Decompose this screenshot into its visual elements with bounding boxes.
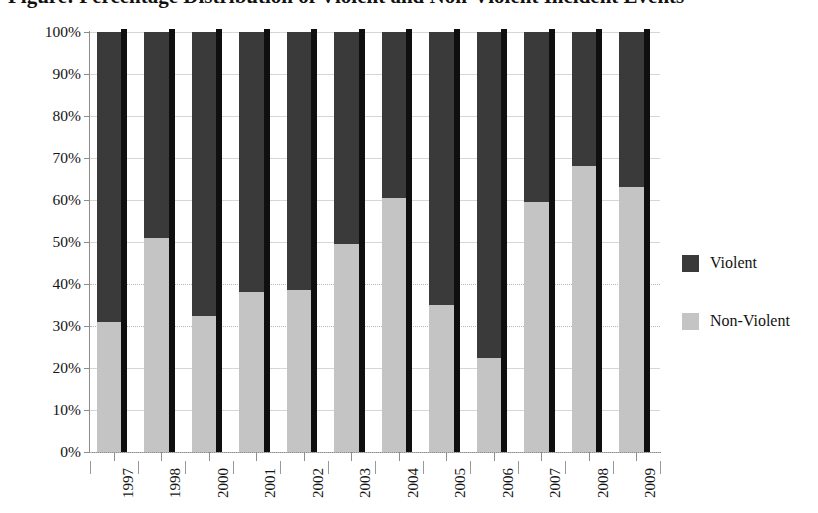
bar-segment-violent[interactable] (334, 32, 359, 244)
bar-slot[interactable] (280, 32, 328, 452)
y-tick-label: 0% (60, 443, 81, 461)
x-axis-separator (423, 461, 424, 474)
bar-segment-violent[interactable] (477, 32, 502, 358)
stacked-bar[interactable] (192, 32, 217, 452)
bar-slot[interactable] (375, 32, 423, 452)
y-tick-label: 60% (53, 191, 81, 209)
legend-item[interactable]: Violent (682, 252, 812, 274)
legend-swatch-icon (682, 313, 699, 330)
bar-slot[interactable] (423, 32, 471, 452)
x-tick-label: 2007 (547, 468, 564, 498)
bar-segment-violent[interactable] (382, 32, 407, 198)
bar-slot[interactable] (470, 32, 518, 452)
bar-segment-non-violent[interactable] (239, 292, 264, 452)
bar-segment-non-violent[interactable] (382, 198, 407, 452)
bar-shadow-edge (311, 29, 317, 452)
x-tick-label: 1998 (167, 468, 184, 498)
x-tick-mark (161, 452, 162, 461)
bar-segment-non-violent[interactable] (619, 187, 644, 452)
stacked-bar[interactable] (97, 32, 122, 452)
legend-swatch-icon (682, 255, 699, 272)
x-tick-mark (494, 452, 495, 461)
x-tick-mark (589, 452, 590, 461)
x-tick-label: 2005 (452, 468, 469, 498)
bar-segment-non-violent[interactable] (287, 290, 312, 452)
bar-segment-violent[interactable] (429, 32, 454, 305)
legend-label: Violent (710, 254, 757, 272)
bar-slot[interactable] (185, 32, 233, 452)
x-tick-mark (256, 452, 257, 461)
stacked-bar[interactable] (144, 32, 169, 452)
x-axis-separator (375, 461, 376, 474)
bar-segment-violent[interactable] (239, 32, 264, 292)
bar-shadow-edge (644, 29, 650, 452)
stacked-bar[interactable] (382, 32, 407, 452)
y-tick-label: 80% (53, 107, 81, 125)
bar-segment-non-violent[interactable] (477, 358, 502, 453)
bar-segment-violent[interactable] (97, 32, 122, 322)
legend-item[interactable]: Non-Violent (682, 310, 812, 332)
bar-shadow-edge (501, 29, 507, 452)
bar-segment-non-violent[interactable] (524, 202, 549, 452)
x-tick-label: 2004 (405, 468, 422, 498)
bar-segment-violent[interactable] (572, 32, 597, 166)
bar-segment-violent[interactable] (144, 32, 169, 238)
bar-shadow-edge (359, 29, 365, 452)
stacked-bar[interactable] (572, 32, 597, 452)
stacked-bar[interactable] (287, 32, 312, 452)
bar-shadow-edge (121, 29, 127, 452)
stacked-bar[interactable] (477, 32, 502, 452)
x-axis-separator (90, 461, 91, 474)
chart-legend: ViolentNon-Violent (682, 252, 812, 368)
x-axis-separator (328, 461, 329, 474)
bar-slot[interactable] (90, 32, 138, 452)
bar-slot[interactable] (328, 32, 376, 452)
plot-area: 0%10%20%30%40%50%60%70%80%90%100% (90, 32, 660, 452)
x-tick-mark (351, 452, 352, 461)
gridline (90, 452, 660, 454)
y-tick-label: 40% (53, 275, 81, 293)
bar-segment-non-violent[interactable] (429, 305, 454, 452)
chart-title: Figure: Percentage Distribution of Viole… (8, 0, 708, 9)
x-tick-label: 2001 (262, 468, 279, 498)
stacked-bar[interactable] (239, 32, 264, 452)
x-axis-separator (233, 461, 234, 474)
x-tick-label: 2003 (357, 468, 374, 498)
bar-segment-non-violent[interactable] (192, 316, 217, 453)
x-axis-separator (138, 461, 139, 474)
x-axis-separator (518, 461, 519, 474)
bar-shadow-edge (596, 29, 602, 452)
x-tick-mark (636, 452, 637, 461)
bar-segment-non-violent[interactable] (144, 238, 169, 452)
x-tick-label: 2008 (595, 468, 612, 498)
x-tick-mark (541, 452, 542, 461)
bar-segment-violent[interactable] (619, 32, 644, 187)
bar-shadow-edge (406, 29, 412, 452)
bar-slot[interactable] (233, 32, 281, 452)
bar-slot[interactable] (138, 32, 186, 452)
y-tick-label: 70% (53, 149, 81, 167)
x-tick-mark (446, 452, 447, 461)
bar-shadow-edge (169, 29, 175, 452)
x-axis-separator (613, 461, 614, 474)
bar-shadow-edge (264, 29, 270, 452)
bar-slot[interactable] (613, 32, 661, 452)
bar-segment-violent[interactable] (524, 32, 549, 202)
y-tick-label: 100% (45, 23, 81, 41)
stacked-bar[interactable] (334, 32, 359, 452)
y-tick-label: 10% (53, 401, 81, 419)
x-axis-separator (565, 461, 566, 474)
y-tick-label: 30% (53, 317, 81, 335)
x-tick-mark (399, 452, 400, 461)
stacked-bar[interactable] (619, 32, 644, 452)
bar-segment-violent[interactable] (192, 32, 217, 316)
bar-segment-non-violent[interactable] (572, 166, 597, 452)
bar-segment-non-violent[interactable] (97, 322, 122, 452)
bar-slot[interactable] (565, 32, 613, 452)
bar-segment-violent[interactable] (287, 32, 312, 290)
stacked-bar[interactable] (524, 32, 549, 452)
x-axis-separator (185, 461, 186, 474)
bar-segment-non-violent[interactable] (334, 244, 359, 452)
stacked-bar[interactable] (429, 32, 454, 452)
bar-slot[interactable] (518, 32, 566, 452)
